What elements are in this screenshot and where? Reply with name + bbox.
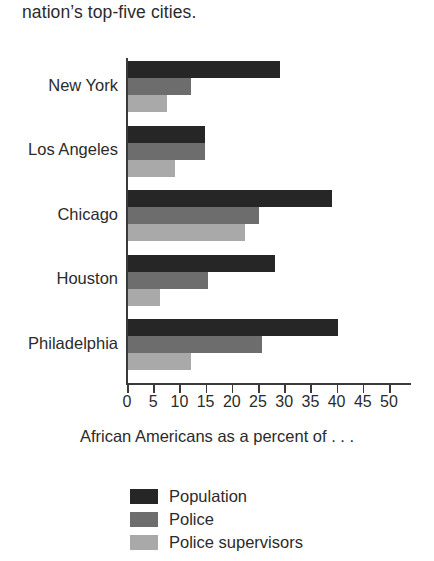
x-axis-tick <box>363 385 365 393</box>
x-axis-tick-label: 40 <box>328 393 346 411</box>
legend-label: Population <box>169 487 247 506</box>
bar <box>128 319 338 336</box>
category-label: Houston <box>57 269 118 288</box>
x-axis-tick-label: 10 <box>170 393 188 411</box>
legend-label: Police <box>169 510 214 529</box>
x-axis-tick-label: 20 <box>223 393 241 411</box>
x-axis-tick <box>206 385 208 393</box>
category-label: Chicago <box>57 205 118 224</box>
legend-item[interactable]: Police <box>130 508 303 531</box>
x-axis-tick-label: 45 <box>354 393 372 411</box>
legend-item[interactable]: Population <box>130 485 303 508</box>
x-axis-caption: African Americans as a percent of . . . <box>0 427 434 446</box>
x-axis-tick <box>232 385 234 393</box>
legend-swatch-icon <box>130 489 158 504</box>
x-axis-tick-label: 50 <box>380 393 398 411</box>
bar <box>128 160 175 177</box>
bar <box>128 336 262 353</box>
bar <box>128 95 167 112</box>
x-axis-tick <box>284 385 286 393</box>
legend-item[interactable]: Police supervisors <box>130 531 303 554</box>
x-axis-tick-label: 30 <box>275 393 293 411</box>
legend-label: Police supervisors <box>169 533 303 552</box>
bar <box>128 224 245 241</box>
x-axis-tick-label: 15 <box>197 393 215 411</box>
x-axis-tick <box>153 385 155 393</box>
category-label: Philadelphia <box>28 334 118 353</box>
x-axis-tick <box>389 385 391 393</box>
bar <box>128 78 191 95</box>
bar <box>128 353 191 370</box>
bar <box>128 61 280 78</box>
x-axis-tick <box>337 385 339 393</box>
x-axis-tick-label: 25 <box>249 393 267 411</box>
bar <box>128 255 275 272</box>
bar <box>128 143 205 160</box>
x-axis-tick-label: 35 <box>301 393 319 411</box>
x-axis-tick-label: 0 <box>123 393 132 411</box>
bar-chart: 05101520253035404550 New YorkLos Angeles… <box>0 0 434 561</box>
category-label: New York <box>48 76 118 95</box>
chart-legend: PopulationPolicePolice supervisors <box>130 485 303 554</box>
x-axis-line <box>126 383 411 385</box>
x-axis-tick <box>179 385 181 393</box>
x-axis-tick <box>258 385 260 393</box>
bar <box>128 272 208 289</box>
bar <box>128 207 259 224</box>
category-label: Los Angeles <box>28 140 118 159</box>
x-axis-tick <box>310 385 312 393</box>
bar <box>128 190 332 207</box>
bar <box>128 126 205 143</box>
legend-swatch-icon <box>130 512 158 527</box>
bar <box>128 289 160 306</box>
legend-swatch-icon <box>130 535 158 550</box>
x-axis-tick-label: 5 <box>149 393 158 411</box>
x-axis-tick <box>127 385 129 393</box>
